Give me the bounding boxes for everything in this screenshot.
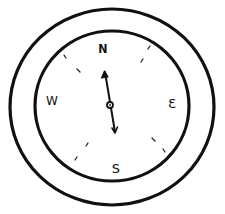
tick-se-inner <box>152 138 155 141</box>
north-arrowhead-icon <box>102 71 109 78</box>
tick-marks <box>64 46 165 160</box>
tick-se-outer <box>163 149 165 152</box>
compass-drawing: N Ɛ S W <box>0 0 225 214</box>
tick-sw-inner <box>86 143 88 146</box>
tick-nw-outer <box>64 55 66 58</box>
compass-graphic <box>0 0 225 214</box>
tick-nw-inner <box>77 69 80 72</box>
compass-needle <box>102 71 118 133</box>
tick-ne-inner <box>141 59 143 62</box>
tick-ne-outer <box>148 46 150 49</box>
tick-sw-outer <box>75 157 77 160</box>
label-west: W <box>46 95 58 107</box>
label-north: N <box>98 42 107 55</box>
label-south: S <box>112 162 120 175</box>
label-east: Ɛ <box>168 97 176 110</box>
